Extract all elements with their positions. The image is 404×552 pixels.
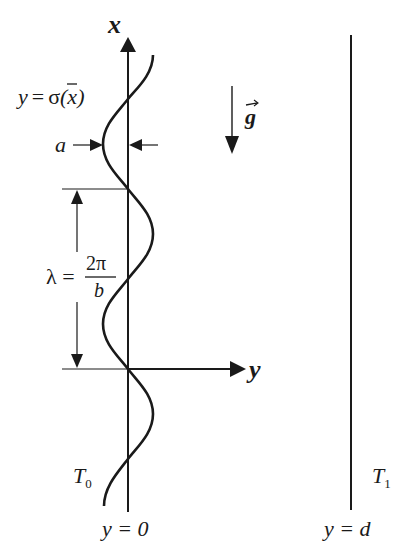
gravity-arrow-icon [225,136,239,154]
x-axis-arrowhead-icon [120,37,136,52]
amplitude-label: a [55,132,66,157]
y-axis-label: y [246,355,261,384]
wavelength-denominator: b [94,279,104,301]
wavelength-numerator: 2π [86,252,106,274]
gravity-label: g [244,104,256,129]
y-axis-arrowhead-icon [230,361,246,377]
y-axis [128,361,246,377]
right-temperature-label: T1 [372,463,391,491]
diagram-canvas: x y y=σ(x) a λ = 2π b g T0 [0,0,404,552]
amplitude-indicator [73,139,158,151]
x-axis [120,37,136,512]
wavelength-lhs: λ = [46,264,75,289]
left-wall-position-label: y = 0 [100,516,149,541]
gravity-vector [225,86,239,154]
left-temperature-label: T0 [73,463,92,491]
curve-label: y=σ(x) [16,84,84,109]
x-axis-label: x [107,10,121,39]
right-wall-position-label: y = d [322,516,372,541]
